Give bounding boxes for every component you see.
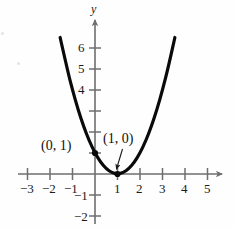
x-tick-label-2: 2 [136, 182, 143, 195]
x-tick-label-5: 5 [204, 182, 211, 195]
scan-speck [17, 62, 20, 65]
y-tick-label-5: 5 [78, 62, 85, 75]
x-tick-label-neg3: −3 [20, 182, 34, 195]
vertex-annotation: (1, 0) [103, 132, 133, 146]
y-tick-label-6: 6 [78, 41, 85, 54]
y-axis-label: y [91, 3, 96, 15]
y-axis [89, 20, 101, 224]
y-tick-label-neg1: −1 [74, 189, 88, 202]
x-tick-label-3: 3 [159, 182, 166, 195]
vertex-point [114, 171, 120, 177]
vertex-leader-line [117, 149, 123, 169]
parabola-curve [60, 38, 175, 174]
x-tick-label-1: 1 [114, 182, 121, 195]
graph-figure: y −3 −2 −1 1 2 3 4 5 6 5 4 −1 −2 (0, 1) … [0, 0, 235, 228]
x-tick-label-neg2: −2 [42, 182, 56, 195]
y-tick-label-neg2: −2 [74, 210, 88, 223]
scan-speck [1, 32, 4, 35]
y-intercept-annotation: (0, 1) [41, 139, 71, 153]
x-tick-label-4: 4 [181, 182, 188, 195]
y-intercept-point [92, 150, 98, 156]
y-tick-label-4: 4 [78, 83, 85, 96]
